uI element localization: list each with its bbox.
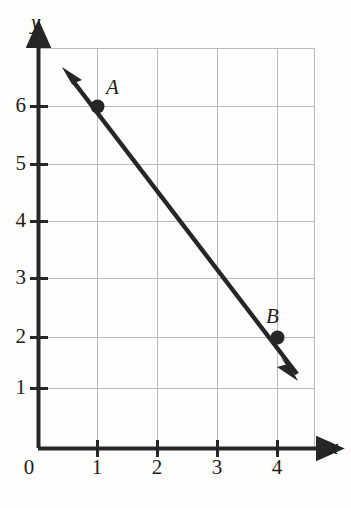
- point-label-a: A: [106, 77, 119, 98]
- x-tick-label-4: 4: [266, 457, 288, 478]
- y-tick-label-1: 1: [4, 377, 26, 398]
- point-label-b: B: [266, 306, 279, 327]
- x-tick-label-2: 2: [146, 457, 168, 478]
- y-axis-label: y: [31, 12, 40, 33]
- coordinate-graph-figure: y x 0 6 5 4 3 2 1 1 2 3 4 A B: [0, 0, 351, 508]
- point-marker-a: [91, 100, 105, 114]
- x-axis-label: x: [329, 437, 338, 458]
- y-tick-label-6: 6: [4, 95, 26, 116]
- y-tick-label-2: 2: [4, 326, 26, 347]
- y-tick-label-3: 3: [4, 267, 26, 288]
- plot-svg: [0, 0, 351, 508]
- y-tick-label-4: 4: [4, 210, 26, 231]
- y-tick-label-5: 5: [4, 153, 26, 174]
- x-tick-label-3: 3: [206, 457, 228, 478]
- origin-tick-label: 0: [18, 457, 40, 478]
- point-marker-b: [271, 331, 285, 345]
- x-tick-label-1: 1: [86, 457, 108, 478]
